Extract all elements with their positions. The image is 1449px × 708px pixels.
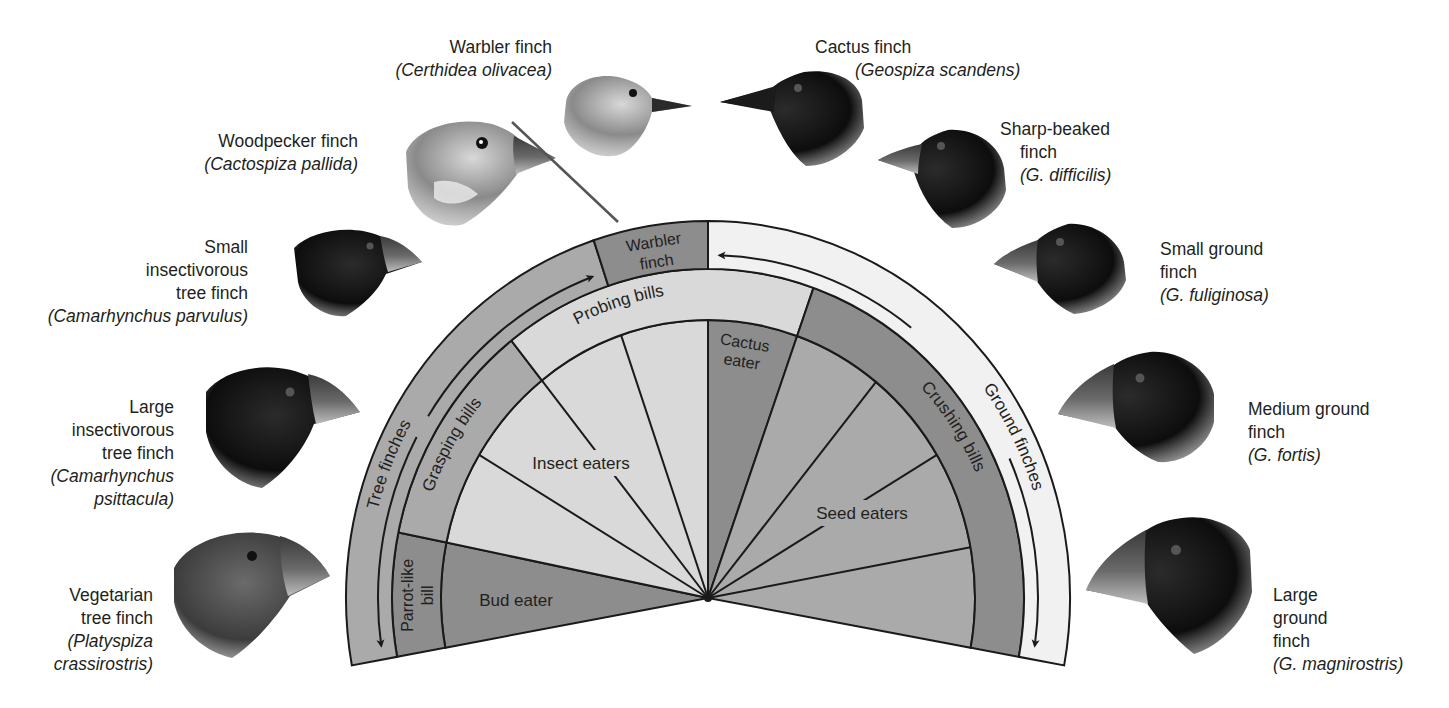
label-large-ground-finch: Large ground finch (G. magnirostris) <box>1273 584 1433 676</box>
common-name: Woodpecker finch <box>180 130 358 153</box>
scientific-name: (Geospiza scandens) <box>815 59 1025 82</box>
large-insectivorous-tree-finch-head-icon <box>206 367 360 488</box>
large-ground-finch-head-icon <box>1086 517 1252 654</box>
label-small-ground-finch: Small ground finch (G. fuliginosa) <box>1160 238 1300 307</box>
common-name-line: Small <box>30 236 248 259</box>
label-insect-eaters: Insect eaters <box>532 454 629 473</box>
common-name-line: Large <box>1273 584 1433 607</box>
common-name-line: finch <box>1248 421 1408 444</box>
common-name-line: tree finch <box>30 282 248 305</box>
scientific-name-line: (Camarhynchus <box>20 465 174 488</box>
common-name: Cactus finch <box>815 36 1025 59</box>
label-woodpecker-finch: Woodpecker finch (Cactospiza pallida) <box>180 130 358 176</box>
common-name-line: Sharp-beaked <box>1000 118 1140 141</box>
label-cactus-finch: Cactus finch (Geospiza scandens) <box>815 36 1025 82</box>
label-large-insectivorous-tree-finch: Large insectivorous tree finch (Camarhyn… <box>20 396 174 511</box>
label-small-insectivorous-tree-finch: Small insectivorous tree finch (Camarhyn… <box>30 236 248 328</box>
common-name-line: finch <box>1000 141 1140 164</box>
small-insectivorous-tree-finch-head-icon <box>294 230 422 316</box>
vegetarian-tree-finch-head-icon <box>174 533 330 658</box>
common-name-line: ground <box>1273 607 1433 630</box>
medium-ground-finch-head-icon <box>1058 352 1214 462</box>
label-warbler-finch: Warbler finch (Certhidea olivacea) <box>380 36 552 82</box>
label-vegetarian-tree-finch: Vegetarian tree finch (Platyspiza crassi… <box>10 584 153 676</box>
warbler-finch-head-icon <box>564 76 692 156</box>
center-hub <box>704 594 712 602</box>
common-name-line: tree finch <box>20 442 174 465</box>
scientific-name-line: crassirostris) <box>10 653 153 676</box>
common-name-line: tree finch <box>10 607 153 630</box>
common-name-line: finch <box>1160 261 1300 284</box>
common-name-line: Small ground <box>1160 238 1300 261</box>
scientific-name: (G. magnirostris) <box>1273 653 1433 676</box>
scientific-name: (G. fortis) <box>1248 444 1408 467</box>
woodpecker-finch-head-icon <box>406 122 556 226</box>
scientific-name: (G. difficilis) <box>1000 164 1140 187</box>
sharp-beaked-finch-head-icon <box>878 130 1006 228</box>
common-name-line: Vegetarian <box>10 584 153 607</box>
small-ground-finch-head-icon <box>994 224 1126 314</box>
common-name-line: Medium ground <box>1248 398 1408 421</box>
scientific-name: (Camarhynchus parvulus) <box>30 305 248 328</box>
common-name-line: insectivorous <box>20 419 174 442</box>
cactus-finch-head-icon <box>720 71 864 166</box>
scientific-name: (Certhidea olivacea) <box>380 59 552 82</box>
common-name: Warbler finch <box>380 36 552 59</box>
scientific-name: (G. fuliginosa) <box>1160 284 1300 307</box>
common-name-line: insectivorous <box>30 259 248 282</box>
common-name-line: Large <box>20 396 174 419</box>
beak-diet-semicircle: Tree finchesGround finchesWarblerfinchPr… <box>0 0 1449 708</box>
label-sharp-beaked-finch: Sharp-beaked finch (G. difficilis) <box>1000 118 1140 187</box>
label-bud-eater: Bud eater <box>479 591 553 610</box>
label-medium-ground-finch: Medium ground finch (G. fortis) <box>1248 398 1408 467</box>
scientific-name: (Cactospiza pallida) <box>180 153 358 176</box>
scientific-name-line: psittacula) <box>20 488 174 511</box>
label-seed-eaters: Seed eaters <box>816 504 908 523</box>
scientific-name-line: (Platyspiza <box>10 630 153 653</box>
common-name-line: finch <box>1273 630 1433 653</box>
finch-radiation-diagram: Tree finchesGround finchesWarblerfinchPr… <box>0 0 1449 708</box>
